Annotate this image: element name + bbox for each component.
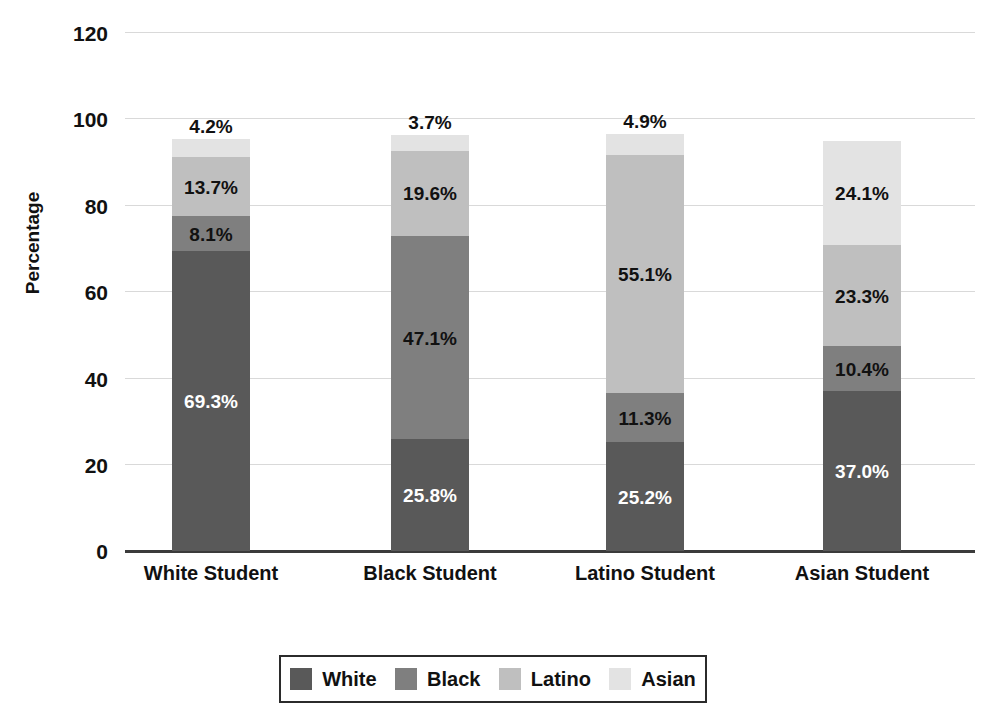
- legend: White Black Latino Asian: [279, 655, 707, 703]
- segment-value-asian: 24.1%: [823, 184, 901, 203]
- segment-white[interactable]: 25.2%: [606, 442, 684, 551]
- segment-value-black: 10.4%: [823, 359, 901, 378]
- segment-value-latino: 23.3%: [823, 286, 901, 305]
- segment-black[interactable]: 10.4%: [823, 346, 901, 391]
- segment-black[interactable]: 47.1%: [391, 236, 469, 440]
- segment-value-black: 11.3%: [606, 408, 684, 427]
- legend-label-black: Black: [427, 669, 480, 689]
- segment-asian[interactable]: [606, 134, 684, 155]
- bar-group-latino-student[interactable]: 4.9% 55.1% 11.3% 25.2%: [606, 32, 684, 551]
- legend-swatch-white-icon: [290, 668, 312, 690]
- segment-latino[interactable]: 23.3%: [823, 245, 901, 346]
- bar-stack-black-student: 19.6% 47.1% 25.8%: [391, 135, 469, 551]
- legend-item-black[interactable]: Black: [395, 668, 480, 690]
- legend-swatch-black-icon: [395, 668, 417, 690]
- segment-latino[interactable]: 55.1%: [606, 155, 684, 393]
- bar-top-label-white-student: 4.2%: [160, 117, 262, 136]
- segment-white[interactable]: 25.8%: [391, 439, 469, 551]
- y-axis-title: Percentage: [22, 153, 44, 333]
- segment-latino[interactable]: 19.6%: [391, 151, 469, 236]
- segment-value-black: 47.1%: [391, 328, 469, 347]
- segment-value-white: 69.3%: [172, 392, 250, 411]
- bar-group-black-student[interactable]: 3.7% 19.6% 47.1% 25.8%: [391, 32, 469, 551]
- segment-value-latino: 19.6%: [391, 184, 469, 203]
- legend-swatch-asian-icon: [609, 668, 631, 690]
- legend-item-asian[interactable]: Asian: [609, 668, 695, 690]
- segment-black[interactable]: 8.1%: [172, 216, 250, 251]
- x-tick-label-latino-student: Latino Student: [535, 563, 755, 583]
- legend-item-latino[interactable]: Latino: [499, 668, 591, 690]
- segment-value-white: 25.2%: [606, 487, 684, 506]
- bar-top-label-latino-student: 4.9%: [594, 112, 696, 131]
- legend-item-white[interactable]: White: [290, 668, 376, 690]
- segment-value-latino: 13.7%: [172, 177, 250, 196]
- y-tick-label-40: 40: [36, 369, 108, 390]
- bar-stack-asian-student: 24.1% 23.3% 10.4% 37.0%: [823, 141, 901, 551]
- legend-label-latino: Latino: [531, 669, 591, 689]
- legend-swatch-latino-icon: [499, 668, 521, 690]
- plot-area: 4.2% 13.7% 8.1% 69.3% 3.7%: [125, 32, 975, 551]
- legend-label-white: White: [322, 669, 376, 689]
- y-tick-label-120: 120: [36, 23, 108, 44]
- segment-latino[interactable]: 13.7%: [172, 157, 250, 216]
- y-tick-label-100: 100: [36, 109, 108, 130]
- bar-top-label-black-student: 3.7%: [379, 113, 481, 132]
- segment-asian[interactable]: [172, 139, 250, 157]
- segment-asian[interactable]: [391, 135, 469, 151]
- segment-value-white: 25.8%: [391, 486, 469, 505]
- stacked-bar-chart: Percentage 120 100 80 60 40 20 0 4.2% 13…: [0, 0, 986, 724]
- y-tick-label-60: 60: [36, 282, 108, 303]
- segment-asian[interactable]: 24.1%: [823, 141, 901, 245]
- x-tick-label-black-student: Black Student: [320, 563, 540, 583]
- y-tick-label-80: 80: [36, 196, 108, 217]
- y-tick-label-20: 20: [36, 455, 108, 476]
- bar-stack-latino-student: 55.1% 11.3% 25.2%: [606, 134, 684, 551]
- segment-white[interactable]: 37.0%: [823, 391, 901, 551]
- bar-stack-white-student: 13.7% 8.1% 69.3%: [172, 139, 250, 551]
- segment-white[interactable]: 69.3%: [172, 251, 250, 551]
- legend-label-asian: Asian: [641, 669, 695, 689]
- y-tick-label-0: 0: [36, 541, 108, 562]
- x-tick-label-white-student: White Student: [101, 563, 321, 583]
- segment-black[interactable]: 11.3%: [606, 393, 684, 442]
- x-tick-label-asian-student: Asian Student: [752, 563, 972, 583]
- bar-group-white-student[interactable]: 4.2% 13.7% 8.1% 69.3%: [172, 32, 250, 551]
- segment-value-latino: 55.1%: [606, 264, 684, 283]
- segment-value-white: 37.0%: [823, 462, 901, 481]
- bar-group-asian-student[interactable]: 24.1% 23.3% 10.4% 37.0%: [823, 32, 901, 551]
- segment-value-black: 8.1%: [172, 224, 250, 243]
